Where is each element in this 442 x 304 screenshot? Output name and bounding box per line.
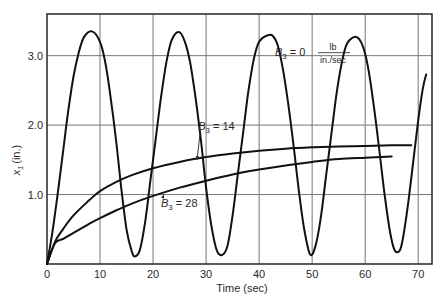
x-tick-label: 70 — [412, 268, 424, 280]
annotation-unit-num: lb — [330, 42, 337, 52]
series-line-2 — [47, 156, 392, 264]
y-tick-label: 3.0 — [28, 50, 43, 62]
series-group — [47, 31, 426, 264]
annotation-rest: = 0 — [287, 46, 306, 58]
x-axis-label: Time (sec) — [216, 282, 268, 294]
annotation-unit-den: in./sec — [320, 55, 347, 65]
y-axis-label: x1(in.) — [10, 145, 24, 176]
y-tick-label: 1.0 — [28, 189, 43, 201]
x-tick-label: 10 — [94, 268, 106, 280]
annotation-main: B — [198, 120, 205, 132]
x-tick-labels: 010203040506070 — [44, 268, 424, 280]
y-tick-label: 2.0 — [28, 119, 43, 131]
y-axis-label-sub: 1 — [17, 166, 24, 170]
x-tick-label: 40 — [253, 268, 265, 280]
series-line-0 — [47, 31, 426, 264]
plot-border — [47, 14, 432, 264]
annotation-label: B3 = 28 — [161, 197, 198, 212]
series-line-1 — [47, 145, 411, 264]
annotation-label: B3 = 14 — [198, 120, 235, 135]
x-tick-label: 20 — [147, 268, 159, 280]
chart: 010203040506070 1.02.03.0 Time (sec) x1(… — [0, 0, 442, 304]
x-tick-label: 0 — [44, 268, 50, 280]
annotation-label: B3 = 0 — [275, 46, 305, 61]
annotations: B3 = 0lbin./secB3 = 14B3 = 28 — [161, 42, 350, 212]
x-tick-label: 50 — [306, 268, 318, 280]
x-tick-label: 30 — [200, 268, 212, 280]
plot-frame — [47, 14, 432, 264]
annotation-rest: = 28 — [173, 197, 198, 209]
annotation-main: B — [275, 46, 282, 58]
annotation-main: B — [161, 197, 168, 209]
y-axis-label-unit: (in.) — [10, 145, 22, 164]
annotation-arrow — [197, 133, 200, 160]
svg-text:x1(in.): x1(in.) — [10, 145, 24, 176]
annotation-2: B3 = 28 — [161, 195, 198, 213]
annotation-rest: = 14 — [210, 120, 235, 132]
y-tick-labels: 1.02.03.0 — [28, 50, 43, 201]
grid — [47, 14, 432, 264]
x-tick-label: 60 — [359, 268, 371, 280]
